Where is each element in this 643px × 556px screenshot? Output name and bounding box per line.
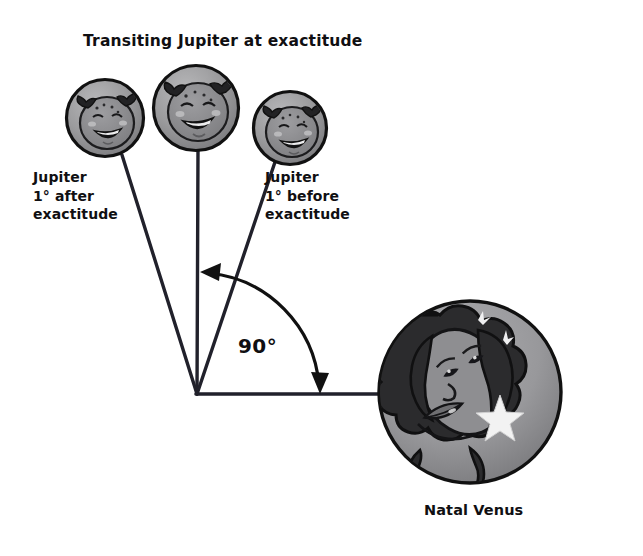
jupiter-before-exactitude-label: Jupiter 1° before exactitude	[265, 168, 350, 224]
line-to-jupiter-exact	[197, 150, 198, 394]
diagram-title: Transiting Jupiter at exactitude	[83, 32, 363, 51]
planet-jupiter-before-exactitude	[254, 92, 327, 165]
planet-jupiter-at-exactitude	[154, 66, 239, 151]
line-to-jupiter-after	[122, 155, 197, 394]
natal-venus-label: Natal Venus	[424, 501, 523, 519]
angle-degrees-label: 90°	[238, 334, 277, 359]
jupiter-after-exactitude-label: Jupiter 1° after exactitude	[33, 168, 118, 224]
astrology-aspect-diagram	[0, 0, 643, 556]
arc-arrowhead-lower	[311, 372, 329, 394]
arc-arrowhead-upper	[200, 263, 221, 281]
planet-jupiter-after-exactitude	[67, 80, 144, 157]
diagram-canvas: Transiting Jupiter at exactitude Jupiter…	[0, 0, 643, 556]
jupiter-laughing-face-icon	[77, 93, 136, 149]
planet-natal-venus	[373, 301, 561, 496]
